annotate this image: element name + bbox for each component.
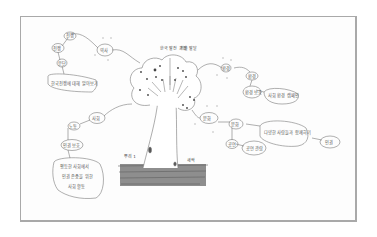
- tree-label-top-right: 기술 발달: [180, 45, 197, 51]
- node-right-top-n1: 환경: [248, 73, 256, 79]
- node-left-top-n1: 전쟁: [66, 32, 74, 38]
- node-left-top-n3: 분단: [58, 60, 66, 66]
- tree-crown: [130, 55, 201, 110]
- node-left-top-hub: 역사: [100, 47, 108, 54]
- node-left-bottom-leaf-line3: 사회 활동: [68, 183, 85, 190]
- node-left-top-leaf: 한국전쟁에 대해 알아보기: [51, 80, 98, 87]
- node-right-top-hub: 환경: [222, 65, 230, 71]
- node-left-bottom-n2: 인권 보호: [63, 142, 80, 148]
- node-right-top-leaf: 사회 환경 캠페인: [268, 92, 299, 99]
- node-right-bottom-n1: 문화: [231, 122, 239, 128]
- tree-label-bottom-right: 새싹: [187, 157, 195, 163]
- node-right-bottom-n2: 공연: [228, 141, 236, 147]
- node-left-bottom-hub: 사회: [92, 115, 100, 122]
- node-right-top-n2: 환경 보호: [245, 89, 262, 95]
- node-left-bottom-leaf-line2: 인권 존중을 위한: [62, 173, 93, 180]
- node-right-bottom-end: 인권: [325, 139, 333, 145]
- node-right-bottom-hub: 문화: [203, 116, 211, 122]
- node-right-bottom-leaf: 다양한 사람들과 함께하기: [264, 129, 311, 136]
- mind-map-drawing: 한국 발전 과정 기술 발달 뿌리 1 새싹 전쟁 전쟁 분단 한국전쟁에 대해…: [0, 0, 377, 237]
- node-right-bottom-n3: 공연 관람: [246, 145, 263, 151]
- node-left-bottom-n1: 노동: [69, 124, 77, 129]
- tree-label-bottom-left: 뿌리 1: [124, 153, 136, 159]
- node-left-bottom-leaf-line1: 평등한 사회에서: [60, 163, 89, 170]
- node-left-top-n2: 전쟁: [53, 45, 61, 51]
